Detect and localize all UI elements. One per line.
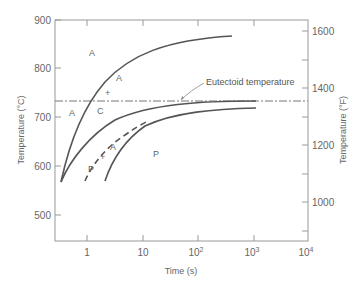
curve-finish	[105, 108, 256, 181]
region-label-pearlite-1: P	[88, 164, 94, 174]
y-axis-right	[302, 31, 308, 231]
x-tick-1: 1	[84, 247, 90, 258]
region-label-plus-2: +	[100, 152, 105, 162]
region-label-austenite-4: A	[110, 142, 116, 152]
x-axis	[87, 20, 254, 241]
y-tick-500: 500	[34, 210, 51, 221]
x-axis-title: Time (s)	[165, 266, 198, 276]
region-label-austenite-3: A	[69, 108, 75, 118]
x-tick-10: 10	[137, 247, 149, 258]
y-axis-left-title: Temperature (°C)	[16, 95, 26, 164]
x-tick-100: 102	[188, 246, 203, 258]
y-right-tick-1200: 1200	[312, 140, 335, 151]
region-label-austenite-1: A	[89, 48, 95, 58]
region-label-austenite-2: A	[116, 73, 122, 83]
arrowhead-icon	[181, 96, 184, 100]
y-tick-900: 900	[34, 15, 51, 26]
x-tick-1000: 103	[244, 246, 259, 258]
ttt-chart: 900 800 700 600 500 1600 1400 1200 1000 …	[0, 0, 355, 284]
x-tick-10000: 104	[298, 246, 313, 258]
eutectoid-arrow	[181, 83, 204, 100]
y-tick-600: 600	[34, 161, 51, 172]
region-label-c: C	[97, 106, 104, 116]
y-right-tick-1400: 1400	[312, 83, 335, 94]
y-axis-right-title: Temperature (°F)	[338, 96, 348, 164]
y-right-tick-1000: 1000	[312, 197, 335, 208]
eutectoid-label: Eutectoid temperature	[206, 77, 295, 87]
region-label-plus-1: +	[105, 88, 110, 98]
y-axis-left	[55, 20, 61, 215]
y-right-tick-1600: 1600	[312, 26, 335, 37]
y-tick-800: 800	[34, 63, 51, 74]
region-label-pearlite-2: P	[153, 149, 159, 159]
y-tick-700: 700	[34, 112, 51, 123]
